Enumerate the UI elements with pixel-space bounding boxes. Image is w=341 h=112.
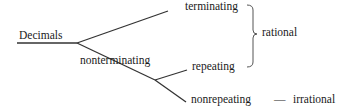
branch-repeating bbox=[155, 70, 187, 80]
root-label-decimals: Decimals bbox=[19, 30, 62, 42]
label-repeating: repeating bbox=[192, 61, 235, 73]
label-rational: rational bbox=[262, 27, 297, 39]
tree-lines bbox=[0, 0, 341, 112]
branch-nonrepeating bbox=[155, 80, 186, 102]
irrational-connector-dash: — bbox=[274, 94, 286, 106]
label-nonrepeating: nonrepeating bbox=[191, 94, 251, 106]
rational-brace bbox=[247, 5, 257, 67]
label-nonterminating: nonterminating bbox=[80, 55, 150, 67]
branch-terminating bbox=[77, 11, 168, 43]
label-irrational: irrational bbox=[293, 94, 335, 106]
label-terminating: terminating bbox=[185, 1, 238, 13]
